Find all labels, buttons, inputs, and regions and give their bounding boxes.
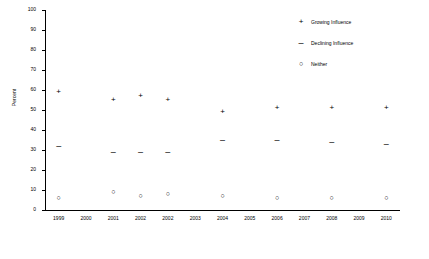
x-tick-label: 2002 (155, 216, 181, 221)
x-tick-label: 2003 (182, 216, 208, 221)
legend-label: Growing Influence (311, 19, 351, 25)
x-tick-label: 2008 (319, 216, 345, 221)
legend-label: Neither (311, 61, 327, 67)
data-point-marker: ○ (52, 194, 66, 201)
x-tick-label: 2007 (291, 216, 317, 221)
data-point-marker: + (134, 92, 148, 100)
chart-legend: +Growing Influence–Declining Influence○N… (295, 18, 415, 81)
data-point-marker: – (52, 142, 66, 151)
y-tick-mark (42, 170, 45, 171)
x-axis-line (45, 210, 400, 211)
x-tick-label: 1999 (46, 216, 72, 221)
data-point-marker: + (106, 96, 120, 104)
y-tick-label: 70 (0, 67, 36, 72)
legend-label: Declining Influence (311, 40, 353, 46)
y-tick-mark (42, 190, 45, 191)
y-tick-label: 100 (0, 7, 36, 12)
y-tick-label: 60 (0, 87, 36, 92)
data-point-marker: + (161, 96, 175, 104)
data-point-marker: – (134, 148, 148, 157)
y-tick-label: 10 (0, 187, 36, 192)
legend-symbol-icon: ○ (295, 60, 307, 68)
legend-symbol-icon: + (295, 18, 307, 26)
y-tick-label: 80 (0, 47, 36, 52)
data-point-marker: – (379, 140, 393, 149)
legend-item: +Growing Influence (295, 18, 415, 39)
data-point-marker: + (379, 104, 393, 112)
legend-item: ○Neither (295, 60, 415, 81)
x-tick-label: 2001 (100, 216, 126, 221)
y-tick-mark (42, 50, 45, 51)
data-point-marker: ○ (379, 194, 393, 201)
y-tick-label: 40 (0, 127, 36, 132)
y-tick-label: 90 (0, 27, 36, 32)
y-tick-mark (42, 70, 45, 71)
data-point-marker: ○ (325, 194, 339, 201)
data-point-marker: – (106, 148, 120, 157)
y-tick-label: 0 (0, 207, 36, 212)
x-tick-label: 2006 (264, 216, 290, 221)
y-tick-mark (42, 130, 45, 131)
data-point-marker: ○ (134, 192, 148, 199)
y-axis-line (45, 10, 46, 210)
y-tick-mark (42, 30, 45, 31)
y-tick-mark (42, 10, 45, 11)
x-tick-label: 2005 (237, 216, 263, 221)
y-tick-mark (42, 110, 45, 111)
x-tick-label: 2004 (210, 216, 236, 221)
data-point-marker: + (325, 104, 339, 112)
data-point-marker: + (216, 108, 230, 116)
legend-item: –Declining Influence (295, 39, 415, 60)
data-point-marker: ○ (216, 192, 230, 199)
x-tick-label: 2002 (128, 216, 154, 221)
data-point-marker: – (270, 136, 284, 145)
y-tick-label: 20 (0, 167, 36, 172)
data-point-marker: ○ (106, 188, 120, 195)
data-point-marker: – (216, 136, 230, 145)
data-point-marker: ○ (161, 190, 175, 197)
y-tick-mark (42, 150, 45, 151)
x-tick-label: 2009 (346, 216, 372, 221)
data-point-marker: + (52, 88, 66, 96)
data-point-marker: – (161, 148, 175, 157)
y-tick-label: 50 (0, 107, 36, 112)
y-tick-label: 30 (0, 147, 36, 152)
data-point-marker: – (325, 138, 339, 147)
y-tick-mark (42, 90, 45, 91)
x-tick-label: 2000 (73, 216, 99, 221)
legend-symbol-icon: – (295, 39, 307, 47)
x-tick-label: 2010 (373, 216, 399, 221)
data-point-marker: ○ (270, 194, 284, 201)
chart-canvas: Percent 0102030405060708090100 199920002… (0, 0, 429, 259)
data-point-marker: + (270, 104, 284, 112)
y-tick-mark (42, 210, 45, 211)
